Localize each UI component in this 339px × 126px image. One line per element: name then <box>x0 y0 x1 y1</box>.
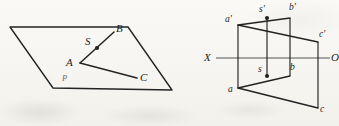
label-point-b-top: b <box>290 63 295 73</box>
segment-a-c <box>238 88 318 108</box>
right-orthographic-diagram <box>0 0 339 126</box>
label-point-c-prime: c' <box>319 30 325 40</box>
label-axis-o: O <box>331 52 339 63</box>
label-point-b-prime: b' <box>289 3 296 13</box>
label-point-a-prime: a' <box>225 15 232 25</box>
label-point-c-top: c <box>320 105 324 115</box>
label-point-s-prime: s' <box>259 5 265 15</box>
point-s-top-marker <box>265 74 269 78</box>
label-axis-x: X <box>204 52 211 63</box>
label-point-a-top: a <box>228 85 233 95</box>
figure-canvas: A B C S P X O a' s' b' c' a s b c <box>0 0 339 126</box>
label-point-s-top: s <box>258 65 262 75</box>
segment-a-b <box>238 76 290 88</box>
segment-a-prime-c-prime <box>238 25 318 42</box>
segment-a-prime-b-prime <box>238 18 290 25</box>
point-s-prime-marker <box>265 16 269 20</box>
